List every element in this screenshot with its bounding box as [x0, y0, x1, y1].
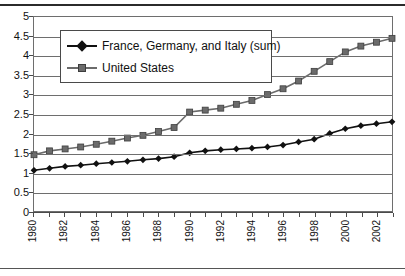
line-chart: 00.511.522.533.544.55 France, Germany, a… — [0, 8, 405, 266]
series-marker — [93, 160, 100, 167]
x-axis-labels: 1980198219841986198819901992199419961998… — [33, 218, 393, 264]
y-axis-tick — [29, 16, 33, 17]
x-axis-tick — [346, 213, 347, 217]
y-axis-tick-label: 0.5 — [14, 187, 29, 198]
series-marker — [311, 136, 318, 143]
series-marker — [357, 122, 364, 129]
gridline — [34, 174, 392, 175]
x-axis-tick — [49, 213, 50, 217]
x-axis-tick — [158, 213, 159, 217]
x-axis-tick — [33, 213, 34, 217]
y-axis-tick — [29, 94, 33, 95]
series-marker — [373, 39, 379, 45]
y-axis-tick-label: 4.5 — [14, 30, 29, 41]
series-marker — [373, 120, 380, 127]
series-marker — [124, 158, 131, 165]
series-marker — [62, 163, 69, 170]
x-axis-tick — [143, 213, 144, 217]
series-marker — [78, 144, 84, 150]
legend-key-square-icon — [67, 62, 97, 74]
y-axis-tick-label: 2.5 — [14, 109, 29, 120]
x-axis-tick — [268, 213, 269, 217]
series-marker — [327, 59, 333, 65]
x-axis-tick — [205, 213, 206, 217]
series-marker — [233, 101, 239, 107]
series-marker — [217, 146, 224, 153]
x-axis-tick — [330, 213, 331, 217]
series-marker — [140, 156, 147, 163]
x-axis-tick-label: 1984 — [91, 220, 101, 242]
x-axis-line — [33, 212, 393, 213]
y-axis-tick — [29, 55, 33, 56]
x-axis-tick — [221, 213, 222, 217]
x-axis-tick-label: 1996 — [278, 220, 288, 242]
series-marker — [389, 118, 396, 125]
series-marker — [249, 97, 255, 103]
series-marker — [311, 68, 317, 74]
series-marker — [62, 146, 68, 152]
series-marker — [280, 142, 287, 149]
series-marker — [77, 162, 84, 169]
x-axis-tick-label: 1994 — [247, 220, 257, 242]
series-marker — [156, 128, 162, 134]
series-marker — [202, 107, 208, 113]
series-marker — [47, 148, 53, 154]
x-axis-tick-label: 1980 — [28, 220, 38, 242]
x-axis-tick — [377, 213, 378, 217]
gridline — [34, 115, 392, 116]
x-axis-tick-label: 1992 — [216, 220, 226, 242]
x-axis-tick — [315, 213, 316, 217]
x-axis-tick — [111, 213, 112, 217]
series-marker — [264, 144, 271, 151]
chart-legend: France, Germany, and Italy (sum) United … — [60, 30, 272, 83]
series-marker — [233, 146, 240, 153]
series-marker — [218, 105, 224, 111]
series-marker — [326, 130, 333, 137]
series-marker — [358, 43, 364, 49]
series-marker — [342, 125, 349, 132]
x-axis-tick-label: 1990 — [185, 220, 195, 242]
x-axis-tick-label: 1986 — [122, 220, 132, 242]
y-axis-tick — [29, 36, 33, 37]
x-axis-tick — [252, 213, 253, 217]
x-axis-tick — [236, 213, 237, 217]
bottom-divider-rule — [0, 268, 405, 269]
series-marker — [249, 145, 256, 152]
series-marker — [171, 125, 177, 131]
x-axis-tick — [127, 213, 128, 217]
series-marker — [295, 139, 302, 146]
x-axis-tick-label: 1982 — [59, 220, 69, 242]
series-marker — [124, 135, 130, 141]
series-marker — [93, 141, 99, 147]
gridline — [34, 95, 392, 96]
y-axis-tick — [29, 134, 33, 135]
series-marker — [109, 138, 115, 144]
legend-entry-france-germany-italy: France, Germany, and Italy (sum) — [67, 38, 281, 54]
x-axis-tick — [362, 213, 363, 217]
y-axis-tick-label: 3.5 — [14, 69, 29, 80]
x-axis-tick-label: 2002 — [372, 220, 382, 242]
y-axis-tick — [29, 114, 33, 115]
legend-label-france-germany-italy: France, Germany, and Italy (sum) — [102, 40, 281, 52]
gridline — [34, 135, 392, 136]
x-axis-tick-label: 2000 — [341, 220, 351, 242]
x-axis-tick — [174, 213, 175, 217]
series-marker — [108, 159, 115, 166]
x-axis-tick — [299, 213, 300, 217]
x-axis-tick — [190, 213, 191, 217]
x-axis-tick-label: 1988 — [153, 220, 163, 242]
series-marker — [342, 49, 348, 55]
x-axis-tick-label: 1998 — [310, 220, 320, 242]
legend-key-diamond-icon — [67, 40, 97, 52]
y-axis-tick — [29, 75, 33, 76]
top-divider-rule — [0, 4, 405, 6]
x-axis-tick — [80, 213, 81, 217]
y-axis-labels: 00.511.522.533.544.55 — [0, 16, 29, 212]
legend-entry-united-states: United States — [67, 60, 174, 76]
y-axis-tick-label: 1.5 — [14, 148, 29, 159]
gridline — [34, 193, 392, 194]
x-axis-tick — [283, 213, 284, 217]
y-axis-tick — [29, 153, 33, 154]
series-marker — [280, 86, 286, 92]
x-axis-tick — [393, 213, 394, 217]
